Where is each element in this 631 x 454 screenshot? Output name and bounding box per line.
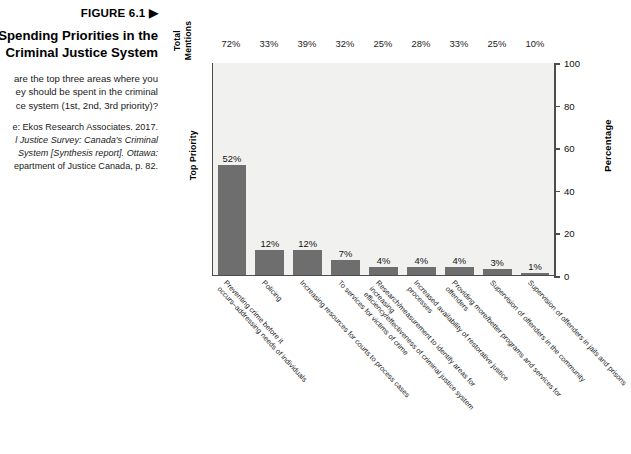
total-mentions-value: 33% <box>250 38 288 54</box>
y-axis-tick-label: 80 <box>564 100 575 111</box>
y-axis-tick-label: 100 <box>564 58 580 69</box>
bar-slot: 3% <box>478 63 516 275</box>
bar <box>407 267 436 275</box>
total-mentions-value: 25% <box>478 38 516 54</box>
bar-value-label: 52% <box>213 153 251 164</box>
bar <box>331 260 360 275</box>
figure-source-line-3: System [Synthesis report]. Ottawa: <box>0 147 158 160</box>
bar-slot: 12% <box>289 63 327 275</box>
total-mentions-row: 72%33%39%32%25%28%33%25%10% <box>212 38 554 54</box>
bar-value-label: 4% <box>365 255 403 266</box>
bar-value-label: 3% <box>478 257 516 268</box>
figure-source-line-1: e: Ekos Research Associates. 2017. <box>0 121 158 134</box>
bar <box>218 165 247 275</box>
bar-value-label: 12% <box>251 238 289 249</box>
bar-value-label: 4% <box>440 255 478 266</box>
bar-chart: Total Mentions Top Priority 72%33%39%32%… <box>160 8 601 448</box>
total-mentions-value: 32% <box>326 38 364 54</box>
y-axis-tick-label: 40 <box>564 185 575 196</box>
bar-slot: 1% <box>516 63 554 275</box>
x-axis-category-label-line-2: occurs–addressing needs of individuals <box>215 285 330 408</box>
bar-slot: 52% <box>213 63 251 275</box>
y-axis-tick <box>554 276 560 278</box>
bar-value-label: 4% <box>402 255 440 266</box>
bar <box>293 250 322 275</box>
bar <box>521 273 550 275</box>
y-axis-title: Percentage <box>602 111 613 181</box>
plot-area: 52%12%12%7%4%4%4%3%1% <box>212 63 554 276</box>
total-mentions-value: 25% <box>364 38 402 54</box>
bar-slot: 4% <box>365 63 403 275</box>
figure-title-line-1: Spending Priorities in the <box>0 28 158 45</box>
y-axis-tick-label: 0 <box>564 271 569 282</box>
x-axis-category-labels: Preventing crime before itoccurs–address… <box>212 279 554 449</box>
y-axis-tick-label: 20 <box>564 228 575 239</box>
total-mentions-value: 39% <box>288 38 326 54</box>
bar-value-label: 12% <box>289 238 327 249</box>
y-axis-tick <box>554 148 560 150</box>
y-axis-tick <box>554 191 560 193</box>
bar-slot: 7% <box>327 63 365 275</box>
bar <box>369 267 398 275</box>
figure-caption-column: FIGURE 6.1 ▶ Spending Priorities in the … <box>0 6 158 173</box>
figure-source-line-2: l Justice Survey: Canada's Criminal <box>0 134 158 147</box>
y-axis-tick-label: 60 <box>564 143 575 154</box>
total-mentions-axis-label: Total Mentions <box>172 11 193 71</box>
total-mentions-value: 72% <box>212 38 250 54</box>
figure-question-line-3: ce system (1st, 2nd, 3rd priority)? <box>0 99 158 112</box>
bar-slot: 4% <box>402 63 440 275</box>
figure-question-line-1: are the top three areas where you <box>0 72 158 85</box>
total-mentions-value: 28% <box>402 38 440 54</box>
total-mentions-value: 33% <box>440 38 478 54</box>
bar <box>483 269 512 275</box>
figure-title-line-2: Criminal Justice System <box>0 45 158 62</box>
bar-slot: 12% <box>251 63 289 275</box>
y-axis-tick <box>554 106 560 108</box>
figure-source: e: Ekos Research Associates. 2017. l Jus… <box>0 121 158 173</box>
top-priority-axis-label: Top Priority <box>188 125 199 185</box>
y-axis-tick <box>554 233 560 235</box>
figure-source-line-4: epartment of Justice Canada, p. 82. <box>0 160 158 173</box>
bar-slot: 4% <box>440 63 478 275</box>
figure-question: are the top three areas where you ey sho… <box>0 72 158 112</box>
x-axis-category-label-line-2: efficiency/effectiveness of criminal jus… <box>361 291 476 414</box>
bar-value-label: 7% <box>327 248 365 259</box>
figure-source-line-3-text: System [Synthesis report]. Ottawa: <box>18 148 158 158</box>
x-axis-category-label-line-1: Policing <box>260 278 284 303</box>
total-mentions-value: 10% <box>516 38 554 54</box>
bar <box>255 250 284 275</box>
figure-question-line-2: ey should be spent in the criminal <box>0 85 158 98</box>
bar <box>445 267 474 275</box>
bar-value-label: 1% <box>516 261 554 272</box>
figure-number: FIGURE 6.1 ▶ <box>0 6 158 20</box>
y-axis-line <box>554 63 556 276</box>
bar-group: 52%12%12%7%4%4%4%3%1% <box>213 63 554 275</box>
y-axis-tick <box>554 63 560 65</box>
figure-title: Spending Priorities in the Criminal Just… <box>0 28 158 61</box>
